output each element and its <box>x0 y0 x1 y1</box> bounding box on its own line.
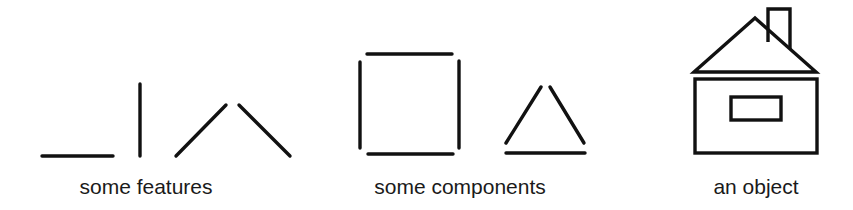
house-chimney <box>768 9 790 49</box>
square-component <box>360 54 459 154</box>
triangle-component <box>506 87 585 153</box>
diagonal-down-line-feature <box>239 105 290 156</box>
diagram-canvas: some features some components an object <box>0 0 853 210</box>
house-roof <box>694 18 816 72</box>
features-panel: some features <box>42 84 290 198</box>
triangle-right-line <box>550 87 584 143</box>
house-body <box>695 79 817 153</box>
object-panel: an object <box>694 9 817 198</box>
triangle-left-line <box>506 87 541 143</box>
components-label: some components <box>374 175 546 198</box>
components-panel: some components <box>360 54 585 198</box>
diagonal-up-line-feature <box>176 105 226 156</box>
object-label: an object <box>713 175 798 198</box>
house-object <box>694 9 817 153</box>
house-window <box>731 97 781 120</box>
features-label: some features <box>79 175 212 198</box>
